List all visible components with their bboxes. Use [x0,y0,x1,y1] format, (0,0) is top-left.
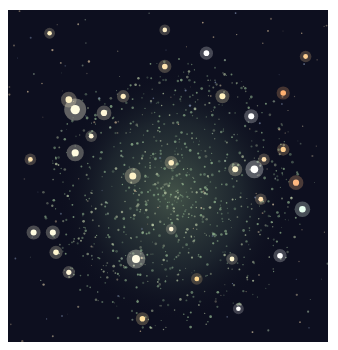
grain-star [226,202,228,204]
grain-star [121,211,124,214]
grain-star [189,326,192,329]
background-star [24,178,26,180]
grain-star [104,171,106,173]
grain-star [177,191,179,193]
grain-star [254,157,255,158]
grain-star [165,251,166,252]
grain-star [159,206,160,207]
background-star [159,157,161,159]
grain-star [191,64,193,66]
grain-star [174,94,175,95]
grain-star [224,170,225,171]
grain-star [167,143,169,145]
grain-star [123,231,125,233]
grain-star [221,183,223,185]
background-star [232,283,233,284]
grain-star [130,237,132,239]
grain-star [257,223,259,225]
grain-star [180,131,183,134]
grain-star [88,198,90,200]
background-star [147,223,148,224]
star [50,229,56,235]
grain-star [199,300,201,302]
background-star [299,321,301,323]
grain-star [106,262,108,264]
grain-star [179,141,180,142]
grain-star [215,83,217,85]
background-star [213,36,215,38]
grain-star [186,175,187,176]
background-star [249,128,250,129]
grain-star [241,243,243,245]
grain-star [176,218,178,220]
grain-star [132,157,134,159]
grain-star [196,138,197,139]
grain-star [182,157,183,158]
grain-star [267,237,269,239]
grain-star [169,267,171,269]
background-star [323,26,324,27]
grain-star [250,145,252,147]
grain-star [251,208,253,210]
grain-star [158,234,161,237]
grain-star [157,120,159,122]
background-star [298,261,300,263]
background-star [267,30,269,32]
grain-star [100,277,101,278]
grain-star [155,325,156,326]
grain-star [272,226,273,227]
grain-star [206,234,207,235]
grain-star [281,172,283,174]
grain-star [249,227,251,229]
grain-star [83,227,84,228]
background-star [298,141,299,142]
grain-star [156,63,157,64]
grain-star [113,270,115,272]
background-star [301,229,302,230]
grain-star [194,108,197,111]
grain-star [189,96,191,98]
grain-star [152,124,153,125]
grain-star [195,223,198,226]
grain-star [186,196,188,198]
grain-star [192,204,193,205]
grain-star [245,234,247,236]
grain-star [246,220,248,222]
grain-star [237,262,239,264]
grain-star [255,144,258,147]
grain-star [252,261,255,264]
grain-star [214,201,217,204]
grain-star [165,327,166,328]
grain-star [180,79,183,82]
grain-star [287,201,290,204]
grain-star [226,157,227,158]
grain-star [207,79,209,81]
background-star [308,327,309,328]
grain-star [235,199,236,200]
grain-star [265,288,266,289]
grain-star [193,181,195,183]
grain-star [154,212,156,214]
grain-star [188,79,191,82]
grain-star [153,136,154,137]
grain-star [83,232,85,234]
star [281,147,286,152]
grain-star [92,259,93,260]
grain-star [136,312,138,314]
grain-star [86,285,88,287]
grain-star [287,131,288,132]
grain-star [243,256,244,257]
grain-star [152,241,153,242]
background-star [228,218,230,220]
background-star [273,100,275,102]
background-star [281,103,283,105]
grain-star [82,255,84,257]
grain-star [181,195,183,197]
background-star [82,65,84,67]
star [232,166,238,172]
background-star [10,323,12,325]
grain-star [108,236,110,238]
grain-star [278,215,280,217]
grain-star [177,274,179,276]
background-star [117,51,118,52]
